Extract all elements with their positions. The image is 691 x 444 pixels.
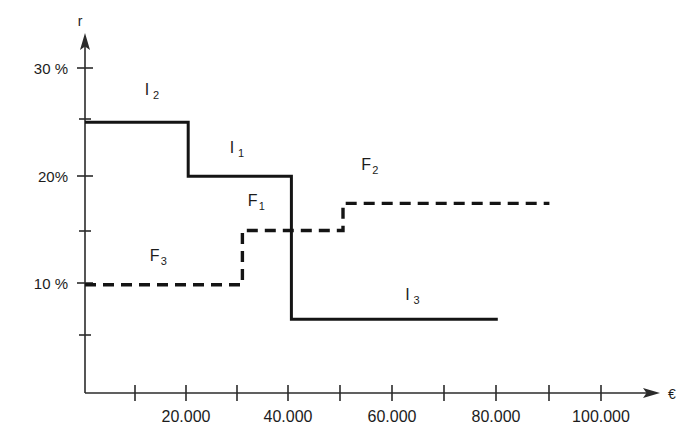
label-i1: I 1 xyxy=(230,139,244,159)
label-i2: I 2 xyxy=(145,81,159,101)
y-tick-label-20: 20% xyxy=(38,168,68,185)
y-tick-label-10: 10 % xyxy=(34,275,68,292)
x-axis-group: 20.000 40.000 60.000 80.000 100.000 € xyxy=(85,385,676,425)
series-f-step-path xyxy=(85,203,549,284)
x-tick-label-80000: 80.000 xyxy=(472,408,521,425)
x-tick-label-20000: 20.000 xyxy=(162,408,211,425)
y-axis-label: r xyxy=(78,13,83,29)
label-f2-subscript: 2 xyxy=(372,164,378,176)
series-annotations: I 2 I 1 I 3 F 3 F 1 F 2 xyxy=(145,81,420,306)
series-i-step-path xyxy=(85,122,498,319)
y-tick-label-30: 30 % xyxy=(34,60,68,77)
label-i3: I 3 xyxy=(405,286,419,306)
label-f1-text: F xyxy=(248,192,258,209)
label-f1-subscript: 1 xyxy=(259,200,265,212)
label-i3-text: I xyxy=(405,286,409,303)
label-i1-subscript: 1 xyxy=(238,147,244,159)
label-i2-text: I xyxy=(145,81,149,98)
label-i1-text: I xyxy=(230,139,234,156)
label-i3-subscript: 3 xyxy=(414,294,420,306)
y-axis-group: 30 % 20% 10 % r xyxy=(34,13,93,393)
label-f3-text: F xyxy=(150,247,160,264)
chart-canvas: 30 % 20% 10 % r 20.000 40.000 60.000 80.… xyxy=(0,0,691,444)
label-f3: F 3 xyxy=(150,247,167,267)
label-f2-text: F xyxy=(361,156,371,173)
label-i2-subscript: 2 xyxy=(153,89,159,101)
x-axis-label: € xyxy=(668,386,676,402)
x-tick-label-60000: 60.000 xyxy=(368,408,417,425)
x-tick-label-40000: 40.000 xyxy=(264,408,313,425)
label-f2: F 2 xyxy=(361,156,378,176)
label-f1: F 1 xyxy=(248,192,265,212)
label-f3-subscript: 3 xyxy=(161,255,167,267)
x-tick-label-100000: 100.000 xyxy=(572,408,630,425)
step-chart-figure: 30 % 20% 10 % r 20.000 40.000 60.000 80.… xyxy=(0,0,691,444)
